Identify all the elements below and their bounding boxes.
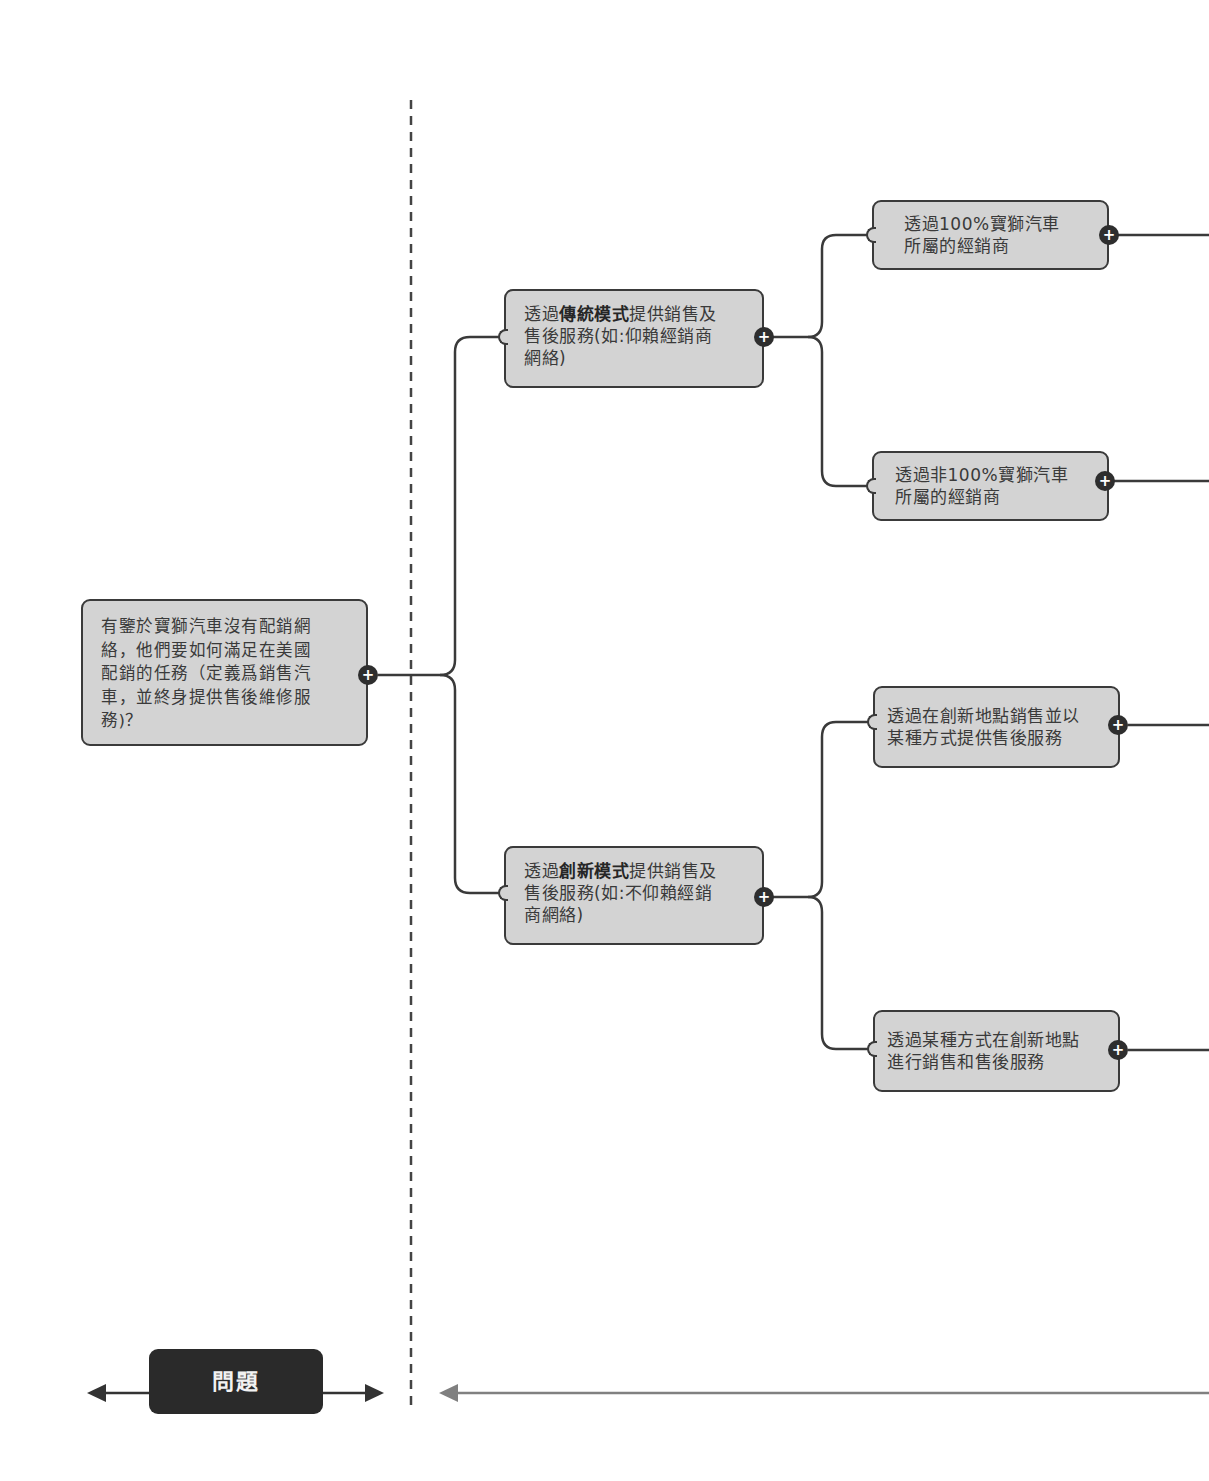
leaf-line-1: 透過在創新地點銷售並以 [887, 705, 1119, 727]
leaf-line-2: 所屬的經銷商 [904, 235, 1104, 257]
text-suffix: 提供銷售及 [629, 304, 717, 324]
leaf-line-1: 透過非100%寶獅汽車 [895, 464, 1105, 486]
leaf-line-2: 某種方式提供售後服務 [887, 727, 1119, 749]
text-bold-mode: 創新模式 [559, 861, 629, 881]
arrow-right-icon [365, 1384, 384, 1402]
branch-traditional-line-1: 透過傳統模式提供銷售及 [524, 303, 760, 325]
leaf-line-2: 所屬的經銷商 [895, 486, 1105, 508]
root-line-5: 務)？ [101, 709, 359, 733]
branch-innovative-line-1: 透過創新模式提供銷售及 [524, 860, 760, 882]
branch-node-traditional[interactable]: 透過傳統模式提供銷售及 售後服務(如:仰賴經銷商 網絡) [504, 289, 764, 388]
leaf-node-innovative-location-sales[interactable]: 透過在創新地點銷售並以 某種方式提供售後服務 [873, 686, 1120, 768]
branch-node-innovative[interactable]: 透過創新模式提供銷售及 售後服務(如:不仰賴經銷 商網絡) [504, 846, 764, 945]
root-question-text: 有鑒於寶獅汽車沒有配銷網 絡，他們要如何滿足在美國 配銷的任務（定義爲銷售汽 車… [101, 615, 359, 733]
connector-notch [866, 478, 876, 494]
leaf-text: 透過在創新地點銷售並以 某種方式提供售後服務 [887, 705, 1119, 749]
branch-traditional-line-3: 網絡) [524, 347, 760, 369]
connector-notch [867, 1041, 877, 1057]
text-prefix: 透過 [524, 304, 559, 324]
branch-innovative-line-3: 商網絡) [524, 904, 760, 926]
branch-innovative-line-2: 售後服務(如:不仰賴經銷 [524, 882, 760, 904]
leaf-text: 透過100%寶獅汽車 所屬的經銷商 [904, 213, 1104, 257]
plus-icon[interactable]: + [754, 887, 774, 907]
leaf-line-2: 進行銷售和售後服務 [887, 1051, 1119, 1073]
leaf-node-full-ownership-dealers[interactable]: 透過100%寶獅汽車 所屬的經銷商 [872, 200, 1109, 270]
root-line-4: 車，並終身提供售後維修服 [101, 686, 359, 710]
leaf-text: 透過某種方式在創新地點 進行銷售和售後服務 [887, 1029, 1119, 1073]
root-line-3: 配銷的任務（定義爲銷售汽 [101, 662, 359, 686]
plus-icon[interactable]: + [1108, 715, 1128, 735]
arrow-left-icon [87, 1384, 106, 1402]
plus-icon[interactable]: + [754, 327, 774, 347]
plus-icon[interactable]: + [1095, 471, 1115, 491]
plus-icon[interactable]: + [1108, 1040, 1128, 1060]
connector-notch [498, 885, 508, 901]
root-line-2: 絡，他們要如何滿足在美國 [101, 639, 359, 663]
connector-notch [867, 714, 877, 730]
section-label-question: 問題 [149, 1349, 323, 1414]
leaf-line-1: 透過100%寶獅汽車 [904, 213, 1104, 235]
leaf-text: 透過非100%寶獅汽車 所屬的經銷商 [895, 464, 1105, 508]
branch-innovative-text: 透過創新模式提供銷售及 售後服務(如:不仰賴經銷 商網絡) [524, 860, 760, 926]
plus-icon[interactable]: + [358, 665, 378, 685]
root-line-1: 有鑒於寶獅汽車沒有配銷網 [101, 615, 359, 639]
root-question-node[interactable]: 有鑒於寶獅汽車沒有配銷網 絡，他們要如何滿足在美國 配銷的任務（定義爲銷售汽 車… [81, 599, 368, 746]
connector-notch [498, 329, 508, 345]
branch-traditional-line-2: 售後服務(如:仰賴經銷商 [524, 325, 760, 347]
connector-notch [866, 227, 876, 243]
plus-icon[interactable]: + [1099, 225, 1119, 245]
arrow-left-icon [439, 1384, 458, 1402]
leaf-line-1: 透過某種方式在創新地點 [887, 1029, 1119, 1051]
issue-tree-diagram: 有鑒於寶獅汽車沒有配銷網 絡，他們要如何滿足在美國 配銷的任務（定義爲銷售汽 車… [0, 0, 1209, 1481]
text-bold-mode: 傳統模式 [559, 304, 629, 324]
text-prefix: 透過 [524, 861, 559, 881]
branch-traditional-text: 透過傳統模式提供銷售及 售後服務(如:仰賴經銷商 網絡) [524, 303, 760, 369]
leaf-node-innovative-location-sales-and-service[interactable]: 透過某種方式在創新地點 進行銷售和售後服務 [873, 1010, 1120, 1092]
leaf-node-non-full-ownership-dealers[interactable]: 透過非100%寶獅汽車 所屬的經銷商 [872, 451, 1109, 521]
text-suffix: 提供銷售及 [629, 861, 717, 881]
